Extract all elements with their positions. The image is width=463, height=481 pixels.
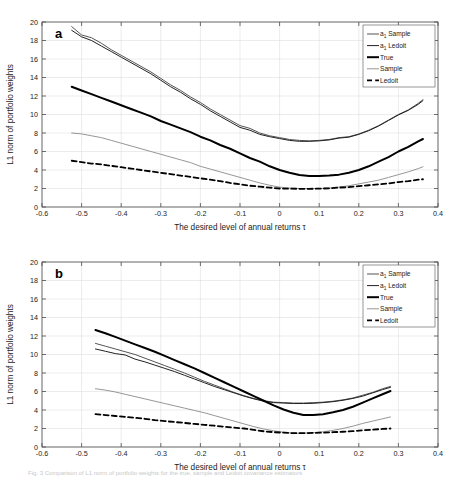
x-tick-label: -0.2 bbox=[194, 209, 206, 218]
x-tick-label: -0.1 bbox=[234, 209, 246, 218]
x-tick-label: 0 bbox=[278, 449, 282, 458]
y-tick-label: 10 bbox=[30, 110, 38, 119]
x-tick-label: 0 bbox=[278, 209, 282, 218]
figure-container: -0.6-0.5-0.4-0.3-0.2-0.100.10.20.30.4024… bbox=[0, 0, 463, 481]
y-tick-label: 16 bbox=[30, 295, 38, 304]
x-tick-label: 0.3 bbox=[393, 449, 403, 458]
y-tick-label: 18 bbox=[30, 276, 38, 285]
legend[interactable]: a1 Samplea1 LedoitTrueSampleLedoit bbox=[363, 265, 435, 327]
x-tick-label: -0.4 bbox=[115, 209, 127, 218]
panel-b-svg: -0.6-0.5-0.4-0.3-0.2-0.100.10.20.30.4024… bbox=[0, 244, 463, 479]
x-tick-label: -0.5 bbox=[75, 449, 87, 458]
y-tick-label: 16 bbox=[30, 55, 38, 64]
x-tick-label: 0.4 bbox=[433, 209, 443, 218]
x-tick-label: -0.2 bbox=[194, 449, 206, 458]
chart-panel-a: -0.6-0.5-0.4-0.3-0.2-0.100.10.20.30.4024… bbox=[0, 4, 463, 239]
x-tick-label: 0.4 bbox=[433, 449, 443, 458]
x-tick-label: 0.2 bbox=[354, 449, 364, 458]
y-tick-label: 0 bbox=[34, 203, 38, 212]
y-tick-label: 12 bbox=[30, 332, 38, 341]
y-tick-label: 18 bbox=[30, 36, 38, 45]
x-tick-label: -0.1 bbox=[234, 449, 246, 458]
panel-letter: a bbox=[55, 26, 63, 41]
y-tick-label: 4 bbox=[34, 406, 38, 415]
series-a1-ledoit bbox=[95, 349, 390, 404]
x-tick-label: 0.1 bbox=[314, 449, 324, 458]
series-group bbox=[95, 330, 390, 433]
x-tick-label: -0.3 bbox=[155, 209, 167, 218]
x-tick-label: 0.2 bbox=[354, 209, 364, 218]
y-axis-label: L1 norm of portfolio weights bbox=[6, 304, 15, 405]
series-true bbox=[72, 87, 423, 176]
panel-letter: b bbox=[55, 266, 63, 281]
y-tick-label: 6 bbox=[34, 387, 38, 396]
x-tick-label: -0.3 bbox=[155, 449, 167, 458]
y-tick-label: 6 bbox=[34, 147, 38, 156]
y-axis-label: L1 norm of portfolio weights bbox=[6, 64, 15, 165]
x-tick-label: -0.5 bbox=[75, 209, 87, 218]
y-tick-label: 8 bbox=[34, 129, 38, 138]
y-tick-label: 20 bbox=[30, 258, 38, 267]
panel-a-svg: -0.6-0.5-0.4-0.3-0.2-0.100.10.20.30.4024… bbox=[0, 4, 463, 239]
y-tick-label: 8 bbox=[34, 369, 38, 378]
y-tick-label: 2 bbox=[34, 424, 38, 433]
legend[interactable]: a1 Samplea1 LedoitTrueSampleLedoit bbox=[363, 25, 435, 87]
x-axis-label: The desired level of annual returns τ bbox=[174, 223, 306, 232]
x-tick-label: -0.4 bbox=[115, 449, 127, 458]
figure-caption: Fig. 3 Comparison of L1 norm of portfoli… bbox=[28, 470, 458, 476]
legend-label: True bbox=[380, 294, 394, 301]
series-true bbox=[95, 330, 390, 415]
y-tick-label: 2 bbox=[34, 184, 38, 193]
y-tick-label: 12 bbox=[30, 92, 38, 101]
x-tick-label: 0.3 bbox=[393, 209, 403, 218]
x-tick-label: 0.1 bbox=[314, 209, 324, 218]
series-sample bbox=[72, 133, 423, 189]
y-tick-label: 0 bbox=[34, 443, 38, 452]
legend-label: Ledoit bbox=[380, 77, 398, 84]
legend-label: Sample bbox=[380, 305, 403, 313]
y-tick-label: 14 bbox=[30, 73, 38, 82]
y-tick-label: 4 bbox=[34, 166, 38, 175]
legend-label: Ledoit bbox=[380, 317, 398, 324]
y-tick-label: 10 bbox=[30, 350, 38, 359]
legend-label: Sample bbox=[380, 65, 403, 73]
y-tick-label: 14 bbox=[30, 313, 38, 322]
legend-label: True bbox=[380, 54, 394, 61]
y-tick-label: 20 bbox=[30, 18, 38, 27]
chart-panel-b: -0.6-0.5-0.4-0.3-0.2-0.100.10.20.30.4024… bbox=[0, 244, 463, 479]
